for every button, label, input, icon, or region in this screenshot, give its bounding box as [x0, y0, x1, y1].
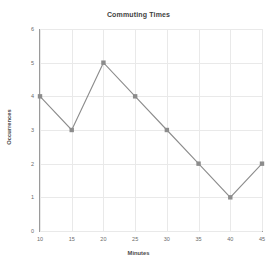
- data-point-marker: [70, 128, 74, 132]
- y-axis-tick-label: 1: [8, 194, 34, 200]
- x-axis-tick-label: 20: [91, 236, 115, 242]
- x-axis-title: Minutes: [0, 250, 277, 256]
- data-point-marker: [38, 94, 42, 98]
- y-axis-tick-label: 6: [8, 26, 34, 32]
- data-point-marker: [260, 161, 264, 165]
- x-axis-tick-label: 40: [218, 236, 242, 242]
- data-point-marker: [196, 161, 200, 165]
- gridline-horizontal: [40, 231, 262, 232]
- data-point-marker: [165, 128, 169, 132]
- y-axis-tick-label: 5: [8, 60, 34, 66]
- data-point-marker: [133, 94, 137, 98]
- data-point-marker: [228, 195, 232, 199]
- x-axis-tick-label: 45: [250, 236, 274, 242]
- gridline-vertical: [262, 29, 263, 231]
- line-chart: Commuting Times 0123456 1015202530354045…: [0, 0, 277, 269]
- x-axis-tick-label: 30: [155, 236, 179, 242]
- y-axis-tick-label: 0: [8, 228, 34, 234]
- data-point-marker: [101, 60, 105, 64]
- y-axis-title: Occurrences: [6, 82, 12, 172]
- x-axis-tick-label: 25: [123, 236, 147, 242]
- x-axis-tick-label: 10: [28, 236, 52, 242]
- data-series: [40, 29, 262, 231]
- x-axis-tick-label: 35: [187, 236, 211, 242]
- plot-area: [40, 29, 262, 231]
- chart-title: Commuting Times: [0, 11, 277, 18]
- x-axis-tick-label: 15: [60, 236, 84, 242]
